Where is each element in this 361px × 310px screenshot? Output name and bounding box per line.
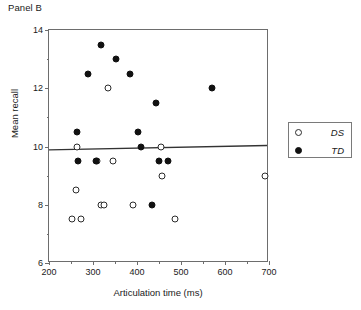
data-point-td <box>137 143 144 150</box>
data-point-td <box>97 41 104 48</box>
x-tick-minor <box>247 261 248 264</box>
x-tick-minor <box>115 261 116 264</box>
data-point-td <box>92 158 99 165</box>
data-point-td <box>149 201 156 208</box>
x-tick-label: 300 <box>85 268 100 277</box>
data-point-ds <box>68 216 75 223</box>
data-point-ds <box>172 216 179 223</box>
data-point-ds <box>73 187 80 194</box>
data-point-td <box>152 99 159 106</box>
x-tick-label: 400 <box>129 268 144 277</box>
y-tick-minor <box>47 176 50 177</box>
data-point-ds <box>158 143 165 150</box>
y-tick-label: 12 <box>33 84 43 93</box>
open-circle-icon <box>295 129 302 136</box>
data-points-layer <box>49 30 267 261</box>
x-tick-major <box>137 261 138 265</box>
x-tick-label: 600 <box>217 268 232 277</box>
data-point-ds <box>104 85 111 92</box>
y-tick-minor <box>47 59 50 60</box>
page-title: Panel B <box>8 2 42 13</box>
plot-area: 68101214 200300400500600700 <box>48 29 268 262</box>
x-tick-minor <box>203 261 204 264</box>
y-tick-label: 10 <box>33 142 43 151</box>
data-point-ds <box>73 143 80 150</box>
x-tick-major <box>269 261 270 265</box>
legend-label-ds: DS <box>331 127 344 138</box>
y-tick-major <box>45 88 49 89</box>
x-tick-major <box>181 261 182 265</box>
data-point-td <box>208 85 215 92</box>
x-tick-minor <box>159 261 160 264</box>
x-tick-minor <box>71 261 72 264</box>
scatter-plot-figure: Panel B Mean recall 68101214 20030040050… <box>0 0 361 310</box>
data-point-td <box>164 158 171 165</box>
data-point-ds <box>158 172 165 179</box>
y-tick-minor <box>47 117 50 118</box>
y-tick-major <box>45 30 49 31</box>
y-tick-label: 8 <box>38 200 43 209</box>
data-point-td <box>156 158 163 165</box>
x-tick-major <box>93 261 94 265</box>
data-point-td <box>84 70 91 77</box>
data-point-td <box>126 70 133 77</box>
x-tick-major <box>49 261 50 265</box>
y-tick-label: 14 <box>33 26 43 35</box>
y-axis-title: Mean recall <box>9 74 20 154</box>
data-point-ds <box>77 216 84 223</box>
data-point-td <box>74 158 81 165</box>
legend-label-td: TD <box>331 145 344 156</box>
x-tick-label: 700 <box>261 268 276 277</box>
filled-circle-icon <box>295 147 302 154</box>
legend: DS TD <box>288 122 352 158</box>
y-tick-minor <box>47 234 50 235</box>
y-tick-major <box>45 147 49 148</box>
legend-item-ds: DS <box>289 123 351 141</box>
data-point-ds <box>130 201 137 208</box>
data-point-td <box>134 128 141 135</box>
legend-item-td: TD <box>289 141 351 159</box>
y-tick-major <box>45 205 49 206</box>
data-point-ds <box>261 172 268 179</box>
x-axis-title: Articulation time (ms) <box>48 287 268 298</box>
data-point-td <box>73 128 80 135</box>
data-point-ds <box>101 201 108 208</box>
x-tick-major <box>225 261 226 265</box>
x-tick-label: 200 <box>41 268 56 277</box>
x-tick-label: 500 <box>173 268 188 277</box>
data-point-ds <box>109 158 116 165</box>
data-point-td <box>112 56 119 63</box>
